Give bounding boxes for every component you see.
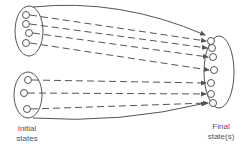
transition-arrow [28,93,206,94]
state-node [210,100,217,107]
state-node [24,106,31,113]
initial-states-group-bottom [14,72,42,118]
state-node [208,91,215,98]
transition-arrow [32,80,206,83]
state-node [25,77,32,84]
state-node [210,54,217,61]
state-node [23,12,30,19]
initial-label-line2: states [7,134,47,144]
final-states-group [204,36,234,108]
state-node [211,67,218,74]
state-node [23,21,30,28]
state-node [208,38,215,45]
state-node [209,45,216,52]
transition-arrow [30,43,209,70]
initial-label-line1: Initial [7,124,47,134]
transitions-bottom [28,80,208,109]
initial-states-group-top [15,6,43,56]
state-node [23,40,30,47]
bounding-curve-bottom [33,103,206,119]
state-node [21,90,28,97]
transitions-top [30,15,209,70]
final-states-label: Final state(s) [201,122,241,142]
final-label-line2: state(s) [201,132,241,142]
state-node [208,80,215,87]
bounding-curve-top [33,5,205,35]
state-node [26,30,33,37]
final-label-line1: Final [201,122,241,132]
initial-states-label: Initial states [7,124,47,144]
